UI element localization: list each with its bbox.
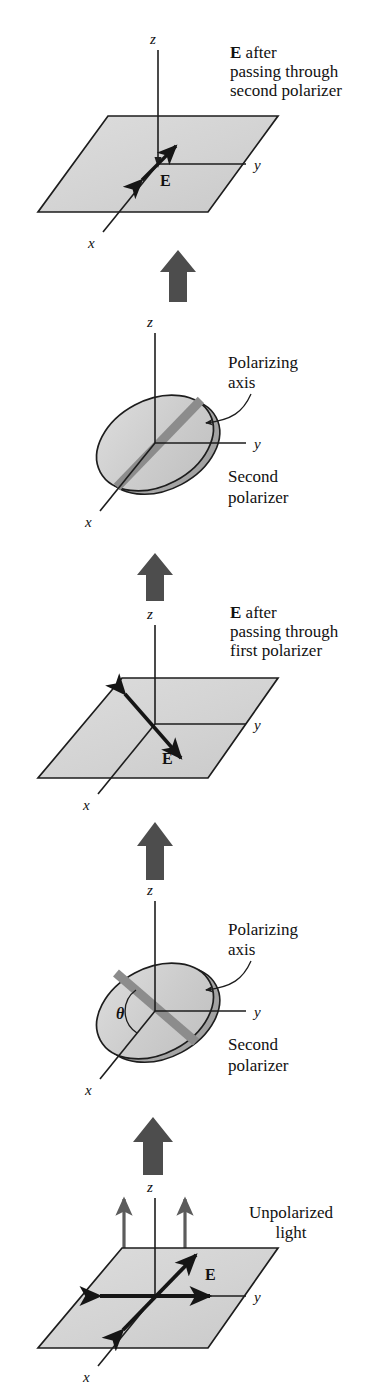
svg-text:E after: E after [230,603,277,622]
flow-arrow-2 [137,553,173,601]
coordinate-plane [38,1248,278,1348]
caption-line-1: passing through [230,622,339,641]
y-axis-label: y [252,717,261,733]
y-axis-label: y [252,1004,261,1020]
z-axis-label: z [146,314,153,330]
flow-arrow-3 [137,822,173,880]
x-axis-label: x [84,514,92,530]
x-axis-label: x [82,797,90,813]
z-axis-label: z [146,882,153,898]
e-field-label: E [205,1266,216,1283]
z-axis-label: z [149,31,156,47]
up-arrow-icon [137,822,173,880]
polarization-figure: E after passing through second polarizer… [0,0,390,1396]
up-arrow-icon [133,1117,173,1175]
caption-line-2: second polarizer [230,81,342,100]
panel-e-after-first-polarizer: E after passing through first polarizer … [38,603,339,813]
second-polarizer-label-line-0: Second [228,1035,279,1054]
z-axis-label: z [146,1179,153,1195]
panel-unpolarized-light: Unpolarized light z y x E [38,1179,334,1385]
polarizing-axis-label-line-1: axis [228,940,255,959]
y-axis-label: y [252,157,261,173]
figure-canvas: E after passing through second polarizer… [0,0,390,1396]
x-axis-label: x [84,1082,92,1098]
polarizing-axis-label-line-1: axis [228,373,255,392]
flow-arrow-1 [160,250,196,302]
caption-line-0: after [241,603,277,622]
y-axis-label: y [252,436,261,452]
up-arrow-icon [160,250,196,302]
polarizing-axis-label-line-0: Polarizing [228,353,298,372]
svg-text:E after: E after [230,43,277,62]
caption-bold-lead: E [230,43,241,62]
e-field-label: E [162,750,173,767]
caption-line-2: first polarizer [230,641,322,660]
unpolarized-light-label-line-0: Unpolarized [249,1203,334,1222]
x-axis-label: x [82,1369,90,1385]
y-axis-label: y [252,1289,261,1305]
polarizing-axis-label-line-0: Polarizing [228,920,298,939]
panel-e-after-second-polarizer: E after passing through second polarizer… [38,31,342,251]
second-polarizer-label-line-0: Second [228,467,279,486]
second-polarizer-label-line-1: polarizer [228,1056,289,1075]
unpolarized-light-label-line-1: light [275,1223,306,1242]
coordinate-plane [38,678,278,778]
second-polarizer-label-line-1: polarizer [228,488,289,507]
panel-second-polarizer-upper: Polarizing axis Second polarizer z y x [80,314,298,530]
flow-arrow-4 [133,1117,173,1175]
caption-e-after-first-polarizer: E after passing through first polarizer [230,603,339,660]
caption-line-1: passing through [230,62,339,81]
panel-second-polarizer-lower: Polarizing axis Second polarizer z y x θ [80,882,298,1098]
theta-label: θ [116,1005,125,1022]
up-arrow-icon [137,553,173,601]
caption-e-after-second-polarizer: E after passing through second polarizer [230,43,342,100]
caption-line-0: after [241,43,277,62]
z-axis-label: z [146,606,153,622]
x-axis-label: x [87,235,95,251]
caption-bold-lead: E [230,603,241,622]
e-field-label: E [160,172,171,189]
